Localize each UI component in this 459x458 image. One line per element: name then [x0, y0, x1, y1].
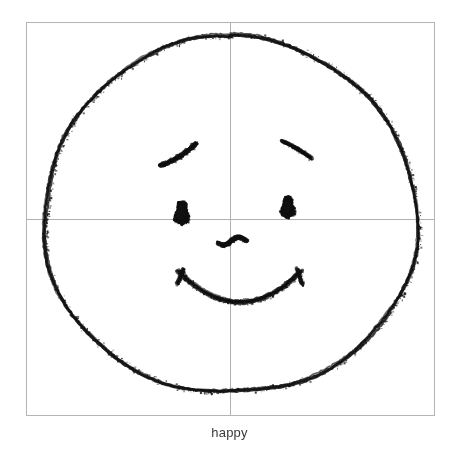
sketch-figure: happy [0, 0, 459, 458]
sketch-drawing-canvas [0, 0, 459, 458]
figure-caption: happy [0, 424, 459, 442]
